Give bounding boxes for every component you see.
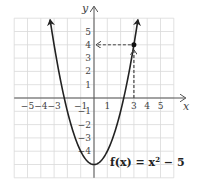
y-axis-label: y bbox=[81, 2, 89, 15]
dashed-guides bbox=[96, 42, 136, 98]
function-graph: −5−4−3−1134554321−1−2−3−4 x y f(x) = x2 … bbox=[0, 0, 200, 188]
x-tick-label: −4 bbox=[34, 101, 48, 111]
y-tick-label: −1 bbox=[78, 106, 91, 116]
y-tick-label: −2 bbox=[78, 120, 91, 130]
x-tick-label: 4 bbox=[144, 101, 150, 111]
y-tick-label: −3 bbox=[78, 133, 92, 143]
axes bbox=[14, 6, 186, 178]
function-label: f(x) = x2 − 5 bbox=[110, 155, 185, 169]
x-tick-label: −5 bbox=[21, 101, 35, 111]
y-tick-label: 1 bbox=[85, 80, 91, 90]
y-tick-label: 4 bbox=[85, 40, 91, 50]
function-label-base: f(x) = x bbox=[110, 156, 156, 169]
y-tick-label: 2 bbox=[85, 66, 91, 76]
curve-right-branch bbox=[94, 20, 138, 165]
function-label-rest: − 5 bbox=[160, 156, 185, 169]
x-axis-label: x bbox=[183, 100, 190, 113]
tick-labels: −5−4−3−1134554321−1−2−3−4 bbox=[21, 27, 164, 157]
x-tick-label: 5 bbox=[158, 101, 164, 111]
y-tick-label: 3 bbox=[85, 53, 91, 63]
highlight-point bbox=[131, 42, 136, 47]
y-tick-label: 5 bbox=[85, 27, 91, 37]
x-tick-label: −3 bbox=[47, 101, 61, 111]
x-tick-label: 3 bbox=[131, 101, 137, 111]
x-tick-label: 1 bbox=[104, 101, 110, 111]
